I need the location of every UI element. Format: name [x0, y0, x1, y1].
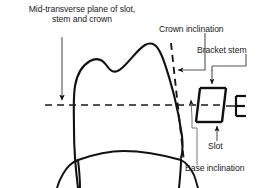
diagram-canvas — [0, 0, 273, 188]
bracket-stem-label: Bracket stem — [197, 45, 247, 55]
bracket-left-edge — [196, 88, 200, 122]
crown-inclination-label: Crown inclination — [159, 24, 224, 34]
bracket-right-edge — [222, 88, 226, 122]
mid-transverse-plane-label-line2: stem and crown — [52, 14, 112, 24]
mid-transverse-plane-label-line1: Mid-transverse plane of slot, — [29, 4, 136, 14]
base-inclination-label: Base inclination — [185, 163, 244, 173]
bracket-slot-opening — [236, 96, 246, 116]
slot-label: Slot — [208, 141, 223, 151]
molar-crown-outline — [57, 43, 198, 188]
base-inclination-leader — [191, 100, 197, 165]
orthodontic-bracket-diagram: Mid-transverse plane of slot, stem and c… — [0, 0, 273, 188]
mid-transverse-plane-label: Mid-transverse plane of slot, stem and c… — [12, 4, 152, 25]
crown-inclination-tangent-line — [171, 43, 184, 162]
bracket-stem-leader — [212, 54, 246, 84]
